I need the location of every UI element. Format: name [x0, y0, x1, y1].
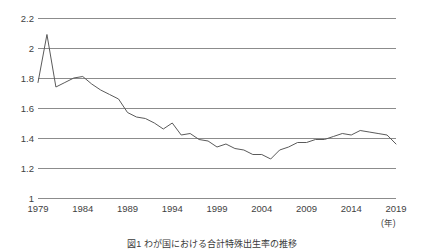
x-tick-2004: 2004 [251, 203, 272, 214]
x-axis-unit-label: (年) [381, 216, 396, 228]
x-tick-1984: 1984 [72, 203, 93, 214]
x-tick-1994: 1994 [162, 203, 183, 214]
x-tick-1979: 1979 [27, 203, 48, 214]
x-tick-1999: 1999 [206, 203, 227, 214]
x-tick-1989: 1989 [117, 203, 138, 214]
x-tick-2014: 2014 [341, 203, 362, 214]
figure-caption: 図1 わが国における合計特殊出生率の推移 [0, 237, 424, 250]
x-tick-2009: 2009 [296, 203, 317, 214]
x-tick-2019: 2019 [385, 203, 406, 214]
